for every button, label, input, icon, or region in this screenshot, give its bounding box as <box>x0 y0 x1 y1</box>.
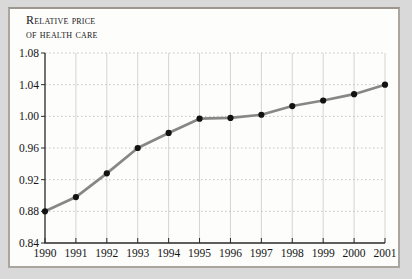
data-point <box>104 170 110 176</box>
data-point <box>73 194 79 200</box>
y-tick-label: 0.92 <box>19 174 39 186</box>
data-point <box>166 130 172 136</box>
y-tick-label: 1.08 <box>19 47 39 59</box>
x-tick-label: 1992 <box>95 247 118 259</box>
data-point <box>196 116 202 122</box>
x-tick-label: 1998 <box>281 247 304 259</box>
x-tick-label: 1994 <box>157 247 180 259</box>
data-point <box>382 82 388 88</box>
data-point <box>320 97 326 103</box>
y-tick-label: 1.04 <box>19 79 39 91</box>
x-tick-label: 1996 <box>219 247 242 259</box>
x-tick-label: 1997 <box>250 247 273 259</box>
x-tick-label: 2000 <box>343 247 366 259</box>
y-tick-label: 0.84 <box>19 237 39 249</box>
chart-title: Relative price of health care <box>26 13 98 41</box>
y-tick-label: 0.96 <box>19 142 39 154</box>
y-tick-label: 0.88 <box>19 205 39 217</box>
x-tick-label: 1995 <box>188 247 211 259</box>
x-tick-label: 2001 <box>374 247 397 259</box>
chart-title-line1: Relative price <box>26 13 98 27</box>
y-tick-label: 1.00 <box>19 110 39 122</box>
data-point <box>42 208 48 214</box>
line-chart: 1990199119921993199419951996199719981999… <box>0 0 412 279</box>
chart-title-line2: of health care <box>26 27 98 41</box>
data-point <box>289 103 295 109</box>
data-point <box>135 145 141 151</box>
data-point <box>258 112 264 118</box>
x-tick-label: 1993 <box>126 247 149 259</box>
data-point <box>351 91 357 97</box>
data-point <box>227 115 233 121</box>
x-tick-label: 1999 <box>312 247 335 259</box>
x-tick-label: 1991 <box>64 247 87 259</box>
